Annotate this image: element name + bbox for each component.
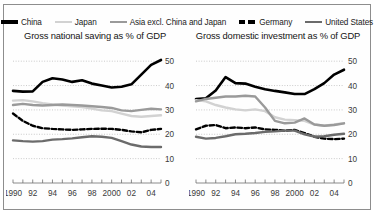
y-axis-tick-label: 10 — [348, 155, 358, 164]
line-swatch-solid-grey-icon — [110, 21, 127, 24]
x-axis-tick-label: 98 — [87, 189, 97, 198]
legend-item-united-states: United States — [305, 18, 373, 27]
y-axis-tick-label: 0 — [165, 179, 170, 188]
line-chart-svg: 0102030405019909294969820000204 — [189, 43, 367, 205]
x-axis-tick-label: 1990 — [189, 189, 206, 198]
x-axis-tick-label: 94 — [231, 189, 241, 198]
legend-item-china: China — [1, 18, 42, 27]
x-axis-tick-label: 2000 — [103, 189, 122, 198]
line-swatch-solid-darkgrey-icon — [305, 21, 322, 24]
x-axis-tick-label: 96 — [251, 189, 261, 198]
series-line-united-states — [196, 131, 344, 139]
chart-screenshot: China Japan Asia excl. China and Japan G… — [0, 0, 374, 220]
legend-item-japan: Japan — [55, 18, 97, 27]
y-axis-tick-label: 50 — [348, 57, 358, 66]
plot-area: 0102030405019909294969820000204 — [189, 43, 367, 205]
y-axis-tick-label: 40 — [348, 82, 358, 91]
y-axis-tick-label: 30 — [348, 106, 358, 115]
x-axis-tick-label: 94 — [48, 189, 58, 198]
chart-title: Gross national saving as % of GDP — [6, 30, 184, 41]
legend-item-asia-excl-china-and-japan: Asia excl. China and Japan — [110, 18, 227, 27]
chart-legend: China Japan Asia excl. China and Japan G… — [0, 15, 374, 29]
y-axis-tick-label: 50 — [165, 57, 175, 66]
x-axis-tick-label: 1990 — [6, 189, 23, 198]
x-axis-tick-label: 92 — [211, 189, 221, 198]
series-line-asia-excl-china-and-japan — [196, 96, 344, 126]
x-axis-tick-label: 02 — [127, 189, 137, 198]
series-line-united-states — [13, 136, 161, 147]
line-swatch-solid-black-icon — [1, 20, 18, 23]
y-axis-tick-label: 10 — [165, 155, 175, 164]
y-axis-tick-label: 20 — [348, 130, 358, 139]
y-axis-tick-label: 20 — [165, 130, 175, 139]
x-axis-tick-label: 02 — [310, 189, 320, 198]
y-axis-tick-label: 40 — [165, 82, 175, 91]
chart-panel-gross-national-saving: Gross national saving as % of GDP 010203… — [6, 30, 184, 205]
series-line-china — [196, 70, 344, 99]
series-line-japan — [13, 100, 161, 117]
x-axis-tick-label: 96 — [68, 189, 78, 198]
x-axis-tick-label: 92 — [28, 189, 38, 198]
series-line-china — [13, 60, 161, 92]
line-chart-svg: 0102030405019909294969820000204 — [6, 43, 184, 205]
legend-label: China — [21, 18, 42, 27]
x-axis-tick-label: 04 — [147, 189, 157, 198]
y-axis-tick-label: 0 — [348, 179, 353, 188]
x-axis-tick-label: 98 — [270, 189, 280, 198]
legend-label: United States — [325, 18, 373, 27]
chart-panel-gross-domestic-investment: Gross domestic investment as % of GDP 01… — [189, 30, 367, 205]
line-swatch-solid-light-icon — [55, 21, 72, 24]
legend-label: Asia excl. China and Japan — [130, 18, 227, 27]
chart-title: Gross domestic investment as % of GDP — [189, 30, 367, 41]
y-axis-tick-label: 30 — [165, 106, 175, 115]
plot-area: 0102030405019909294969820000204 — [6, 43, 184, 205]
legend-item-germany: Germany — [239, 18, 292, 27]
legend-label: Germany — [259, 18, 292, 27]
legend-label: Japan — [75, 18, 97, 27]
line-swatch-dashed-black-icon — [239, 20, 256, 23]
x-axis-tick-label: 04 — [330, 189, 340, 198]
x-axis-tick-label: 2000 — [286, 189, 305, 198]
